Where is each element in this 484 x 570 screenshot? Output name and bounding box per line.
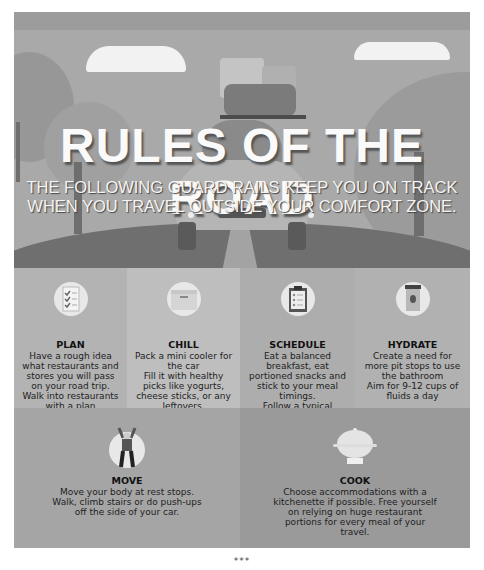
clipboard-icon <box>281 282 315 316</box>
wheel <box>288 222 306 250</box>
duffel-bag-icon <box>224 84 296 116</box>
rule-move: MOVE Move your body at rest stops. Walk,… <box>14 408 240 548</box>
rule-schedule: SCHEDULE Eat a balanced breakfast, eat p… <box>240 268 355 408</box>
wheel <box>178 222 196 250</box>
cooler-icon <box>167 282 201 316</box>
cloud-icon <box>86 46 186 72</box>
rule-cook: COOK Choose accommodations with a kitche… <box>240 408 470 548</box>
rule-plan: PLAN Have a rough idea what restaurants … <box>14 268 127 408</box>
rule-title: CHILL <box>127 340 240 350</box>
water-jug-icon <box>396 282 430 316</box>
sky-band <box>14 12 470 30</box>
person-exercise-icon <box>109 432 145 468</box>
rule-title: PLAN <box>14 340 127 350</box>
rule-text: Pack a mini cooler for the car Fill it w… <box>127 351 240 411</box>
rules-row-2: MOVE Move your body at rest stops. Walk,… <box>14 408 470 548</box>
rule-title: HYDRATE <box>355 340 470 350</box>
rule-text: Have a rough idea what restaurants and s… <box>14 351 127 411</box>
rule-title: MOVE <box>14 476 240 486</box>
rule-text: Choose accommodations with a kitchenette… <box>240 487 470 537</box>
checklist-icon <box>54 282 88 316</box>
rule-title: SCHEDULE <box>240 340 355 350</box>
rule-title: COOK <box>240 476 470 486</box>
rule-hydrate: HYDRATE Create a need for more pit stops… <box>355 268 470 408</box>
cloud-icon <box>354 42 450 60</box>
separator: *** <box>0 556 484 566</box>
infographic: RULES OF THE ROAD THE FOLLOWING GUARD RA… <box>14 12 470 548</box>
hero-banner: RULES OF THE ROAD THE FOLLOWING GUARD RA… <box>14 12 470 268</box>
rule-chill: CHILL Pack a mini cooler for the car Fil… <box>127 268 240 408</box>
cooking-pot-icon <box>329 432 381 468</box>
rule-text: Move your body at rest stops. Walk, clim… <box>14 487 240 517</box>
subtitle: THE FOLLOWING GUARD RAILS KEEP YOU ON TR… <box>14 178 470 216</box>
rule-text: Create a need for more pit stops to use … <box>355 351 470 401</box>
rules-row-1: PLAN Have a rough idea what restaurants … <box>14 268 470 408</box>
